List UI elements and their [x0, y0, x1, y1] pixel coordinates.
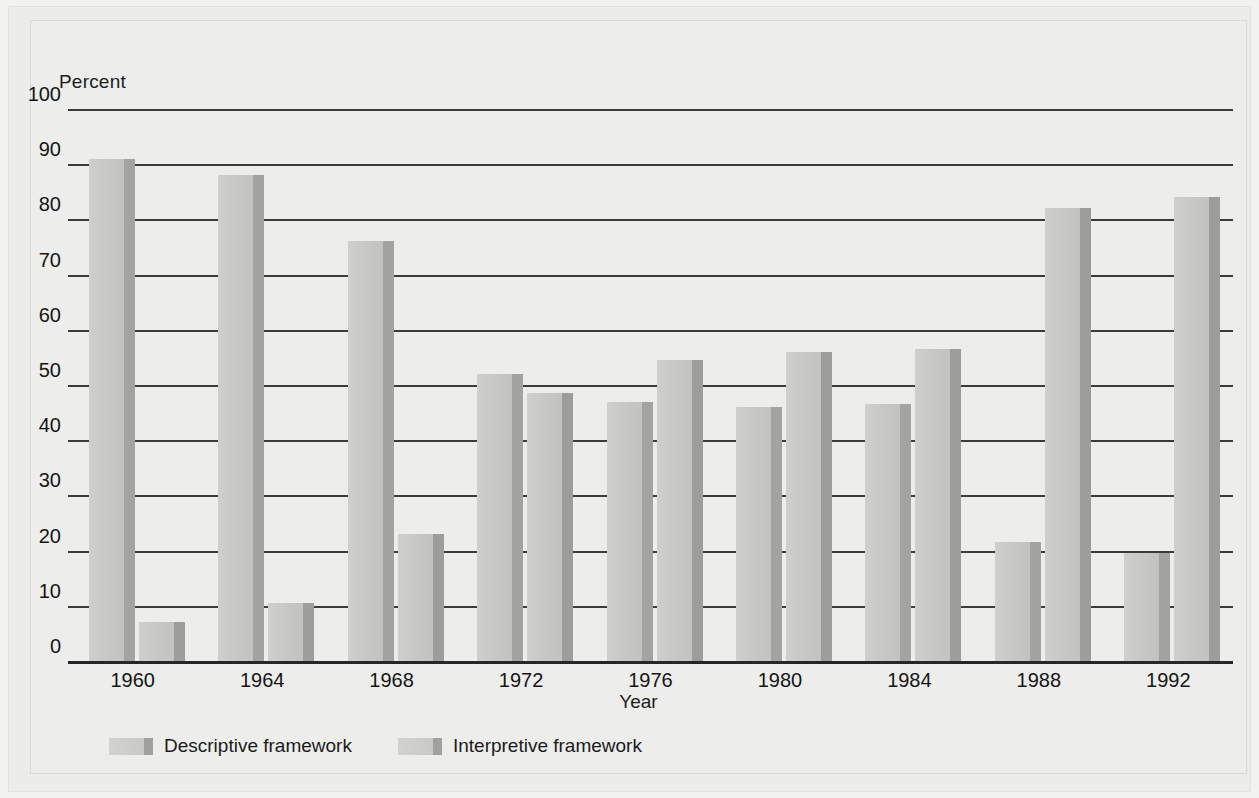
gridline-0: [68, 661, 1233, 664]
bar-face: [786, 352, 822, 661]
bar-1972-descriptive[interactable]: [477, 374, 523, 661]
bar-face: [1124, 553, 1160, 661]
bar-1984-descriptive[interactable]: [865, 404, 911, 661]
x-tick-label-1964: 1964: [192, 669, 332, 692]
bar-1964-interpretive[interactable]: [268, 603, 314, 661]
bar-1980-descriptive[interactable]: [736, 407, 782, 661]
chart-legend: Descriptive framework Interpretive frame…: [109, 735, 642, 757]
y-tick-label-50: 50: [1, 359, 61, 382]
bar-side-shadow: [1080, 208, 1091, 661]
bar-side-shadow: [821, 352, 832, 661]
legend-label-interpretive: Interpretive framework: [453, 735, 642, 757]
bar-1984-interpretive[interactable]: [915, 349, 961, 661]
bar-group-1988: [995, 109, 1091, 661]
bar-group-1984: [865, 109, 961, 661]
y-tick-label-30: 30: [1, 469, 61, 492]
x-tick-label-1968: 1968: [322, 669, 462, 692]
y-tick-label-10: 10: [1, 580, 61, 603]
bar-1960-descriptive[interactable]: [89, 159, 135, 661]
bar-group-1992: [1124, 109, 1220, 661]
bar-side-shadow: [900, 404, 911, 661]
bar-face: [268, 603, 304, 661]
bar-side-shadow: [253, 175, 264, 661]
legend-swatch-interpretive: [398, 738, 442, 755]
y-tick-label-70: 70: [1, 249, 61, 272]
bar-face: [995, 542, 1031, 661]
bar-chart: Percent 0102030405060708090100 Year Desc…: [31, 21, 1246, 773]
bar-side-shadow: [771, 407, 782, 661]
bar-side-shadow: [642, 402, 653, 661]
bar-side-shadow: [692, 360, 703, 661]
bar-1972-interpretive[interactable]: [527, 393, 573, 661]
bar-1968-descriptive[interactable]: [348, 241, 394, 661]
bar-face: [1174, 197, 1210, 661]
y-tick-label-100: 100: [1, 83, 61, 106]
bar-side-shadow: [950, 349, 961, 661]
bar-1976-interpretive[interactable]: [657, 360, 703, 661]
x-tick-label-1980: 1980: [710, 669, 850, 692]
bar-1988-interpretive[interactable]: [1045, 208, 1091, 661]
bar-face: [865, 404, 901, 661]
y-tick-label-20: 20: [1, 525, 61, 548]
scanned-paper: Percent 0102030405060708090100 Year Desc…: [8, 6, 1251, 792]
legend-swatch-descriptive: [109, 738, 153, 755]
bar-face: [398, 534, 434, 661]
x-tick-label-1984: 1984: [839, 669, 979, 692]
bar-face: [736, 407, 772, 661]
bar-side-shadow: [124, 159, 135, 661]
legend-item-descriptive[interactable]: Descriptive framework: [109, 735, 352, 757]
y-tick-label-0: 0: [1, 635, 61, 658]
bar-1980-interpretive[interactable]: [786, 352, 832, 661]
x-tick-label-1972: 1972: [451, 669, 591, 692]
bar-side-shadow: [1209, 197, 1220, 661]
chart-plate: Percent 0102030405060708090100 Year Desc…: [30, 20, 1247, 774]
y-tick-label-90: 90: [1, 138, 61, 161]
bar-group-1964: [218, 109, 314, 661]
bar-group-1960: [89, 109, 185, 661]
bar-group-1980: [736, 109, 832, 661]
bar-1976-descriptive[interactable]: [607, 402, 653, 661]
bar-group-1968: [348, 109, 444, 661]
bar-side-shadow: [383, 241, 394, 661]
bar-face: [348, 241, 384, 661]
bar-side-shadow: [303, 603, 314, 661]
bar-side-shadow: [433, 534, 444, 661]
y-axis-title: Percent: [59, 71, 126, 93]
x-axis-title: Year: [31, 691, 1246, 713]
bar-side-shadow: [562, 393, 573, 661]
bar-1968-interpretive[interactable]: [398, 534, 444, 661]
legend-label-descriptive: Descriptive framework: [164, 735, 352, 757]
bar-face: [218, 175, 254, 661]
chart-page: Percent 0102030405060708090100 Year Desc…: [0, 0, 1259, 798]
bar-face: [527, 393, 563, 661]
y-tick-label-80: 80: [1, 193, 61, 216]
plot-area: 0102030405060708090100: [68, 109, 1233, 661]
bar-1960-interpretive[interactable]: [139, 622, 185, 661]
bar-1988-descriptive[interactable]: [995, 542, 1041, 661]
bar-face: [607, 402, 643, 661]
bar-face: [89, 159, 125, 661]
bar-group-1976: [607, 109, 703, 661]
x-tick-label-1976: 1976: [581, 669, 721, 692]
x-tick-label-1992: 1992: [1098, 669, 1238, 692]
bar-1992-interpretive[interactable]: [1174, 197, 1220, 661]
bar-face: [477, 374, 513, 661]
bar-face: [139, 622, 175, 661]
bar-1964-descriptive[interactable]: [218, 175, 264, 661]
x-tick-label-1960: 1960: [63, 669, 203, 692]
bar-1992-descriptive[interactable]: [1124, 553, 1170, 661]
y-tick-label-60: 60: [1, 304, 61, 327]
x-tick-label-1988: 1988: [969, 669, 1109, 692]
bar-side-shadow: [1159, 553, 1170, 661]
y-tick-label-40: 40: [1, 414, 61, 437]
bar-face: [1045, 208, 1081, 661]
bar-side-shadow: [512, 374, 523, 661]
bar-group-1972: [477, 109, 573, 661]
bar-side-shadow: [174, 622, 185, 661]
bar-face: [657, 360, 693, 661]
bar-face: [915, 349, 951, 661]
bar-side-shadow: [1030, 542, 1041, 661]
legend-item-interpretive[interactable]: Interpretive framework: [398, 735, 642, 757]
